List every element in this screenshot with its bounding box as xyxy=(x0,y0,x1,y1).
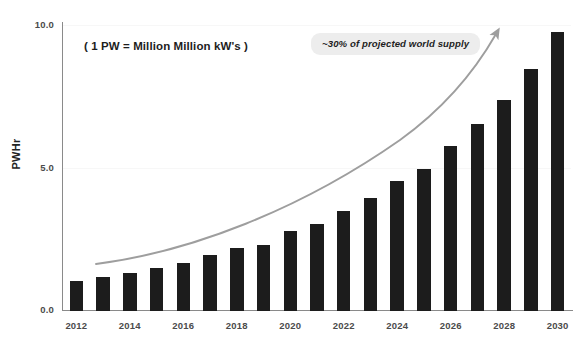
bar-2015 xyxy=(150,268,164,311)
x-tick-label-2014: 2014 xyxy=(110,320,150,331)
bar-2013 xyxy=(96,277,110,311)
bar-2027 xyxy=(471,124,485,311)
x-tick-label-2026: 2026 xyxy=(431,320,471,331)
bar-2028 xyxy=(497,100,511,311)
formula-note: ( 1 PW = Million Million kW's ) xyxy=(84,40,248,52)
bar-2025 xyxy=(417,169,431,312)
bar-2019 xyxy=(257,245,271,311)
bar-2026 xyxy=(444,146,458,311)
x-tick-label-2016: 2016 xyxy=(163,320,203,331)
x-tick-label-2024: 2024 xyxy=(377,320,417,331)
bar-2030 xyxy=(551,32,565,311)
bar-2022 xyxy=(337,211,351,311)
supply-callout: ~30% of projected world supply xyxy=(311,33,480,55)
bar-2020 xyxy=(284,231,298,311)
bar-2018 xyxy=(230,248,244,311)
x-tick-label-2028: 2028 xyxy=(484,320,524,331)
x-tick-label-2018: 2018 xyxy=(217,320,257,331)
bar-2029 xyxy=(524,69,538,311)
bar-2021 xyxy=(310,224,324,311)
chart-container: PWHr 0.05.010.0 201220142016201820202022… xyxy=(0,0,586,351)
bar-2024 xyxy=(390,181,404,311)
x-tick-label-2012: 2012 xyxy=(56,320,96,331)
bar-2016 xyxy=(177,263,191,311)
bar-2014 xyxy=(123,273,137,311)
bar-2017 xyxy=(203,255,217,311)
x-tick-label-2020: 2020 xyxy=(270,320,310,331)
x-tick-label-2030: 2030 xyxy=(538,320,578,331)
bar-2023 xyxy=(364,198,378,311)
bar-2012 xyxy=(70,281,84,311)
x-tick-label-2022: 2022 xyxy=(324,320,364,331)
